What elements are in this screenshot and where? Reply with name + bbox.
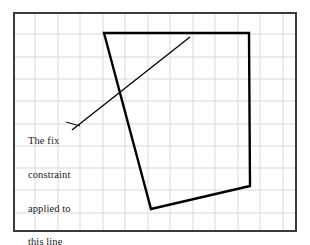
figure-root: The fix constraint applied to this line — [0, 0, 310, 245]
annotation-line-3: applied to — [28, 203, 102, 214]
annotation-line-4: this line — [28, 236, 102, 245]
fix-constraint-label: The fix constraint applied to this line — [28, 113, 102, 245]
annotation-line-2: constraint — [28, 169, 102, 180]
annotation-line-1: The fix — [28, 135, 102, 146]
